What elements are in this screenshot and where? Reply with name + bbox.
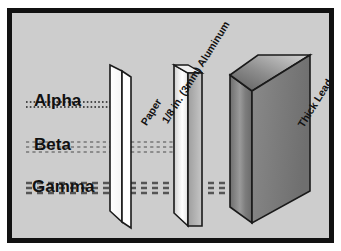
label-alpha: Alpha <box>34 91 81 111</box>
label-beta: Beta <box>34 135 71 155</box>
radiation-penetration-figure: Alpha Beta Gamma Paper 1/8 in. (3mm) Alu… <box>0 0 341 251</box>
label-gamma: Gamma <box>32 177 94 197</box>
figure-stage: Alpha Beta Gamma Paper 1/8 in. (3mm) Alu… <box>12 13 329 238</box>
diagram-canvas <box>12 13 329 238</box>
barrier-paper <box>110 65 131 228</box>
barrier-lead <box>230 55 310 223</box>
figure-frame: Alpha Beta Gamma Paper 1/8 in. (3mm) Alu… <box>7 8 334 243</box>
